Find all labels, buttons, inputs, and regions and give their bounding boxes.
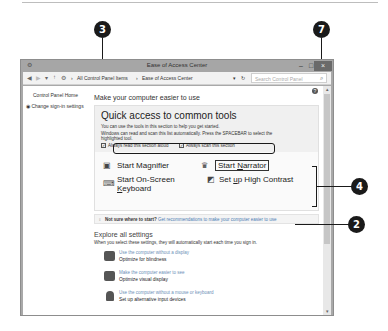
alternative-input-devices-item[interactable]: Use the computer without a mouse or keyb… (119, 290, 214, 302)
quick-access-panel: Quick access to common tools You can use… (94, 105, 319, 211)
keyboard-icon: ⌨ (103, 179, 115, 188)
display-icon (104, 251, 115, 261)
checkbox-checked-icon: ✓ (101, 143, 106, 148)
forward-button[interactable]: ▶ (36, 74, 41, 81)
explore-all-settings-heading: Explore all settings (94, 231, 153, 238)
quick-access-desc: You can use the tools in this section to… (101, 124, 219, 129)
callout-4-bracket-bottom (312, 206, 317, 207)
start-narrator-button[interactable]: ♛Start Narrator (215, 160, 269, 171)
sidebar-item-change-sign-in-settings[interactable]: ◉ Change sign-in settings (26, 103, 84, 109)
control-panel-location-icon: ⚙ (61, 74, 66, 81)
callout-3: 3 (94, 21, 111, 38)
quick-access-heading: Quick access to common tools (101, 110, 237, 121)
callout-4: 4 (351, 178, 368, 195)
address-bar: ◀ ▶ ▾ ↑ ⚙ › All Control Panel Items › Ea… (23, 72, 331, 85)
narrator-icon: ♛ (201, 161, 208, 170)
window-title: Ease of Access Center (21, 62, 333, 68)
explore-all-settings-desc: When you select these settings, they wil… (94, 240, 257, 245)
callout-2-leader (295, 224, 349, 225)
content-area: Control Panel Home ◉ Change sign-in sett… (23, 86, 323, 315)
contrast-icon: ◩ (207, 175, 215, 184)
ease-of-access-window: ⚙ Ease of Access Center – □ × ◀ ▶ ▾ ↑ ⚙ … (20, 59, 334, 316)
recent-locations-button[interactable]: ▾ (45, 74, 48, 81)
refresh-button[interactable]: ↻ (241, 75, 245, 81)
recommendations-tip: ♀ Not sure where to start? Get recommend… (94, 214, 319, 224)
scrollbar-thumb[interactable] (324, 94, 330, 244)
callout-2: 2 (348, 216, 365, 233)
back-button[interactable]: ◀ (27, 74, 32, 81)
vertical-scrollbar[interactable]: ▴ ▾ (323, 86, 331, 315)
callout-7: 7 (313, 21, 330, 38)
optimize-visual-display-item[interactable]: Make the computer easier to see Optimize… (119, 270, 185, 282)
top-divider (22, 2, 378, 3)
up-button[interactable]: ↑ (53, 74, 56, 80)
help-icon[interactable]: ? (312, 88, 318, 94)
person-icon (106, 291, 114, 301)
breadcrumb-ease-of-access-center[interactable]: Ease of Access Center (142, 75, 193, 81)
scroll-down-icon[interactable]: ▾ (323, 308, 331, 314)
checkbox-highlight-outline (113, 143, 275, 154)
scroll-up-icon[interactable]: ▴ (323, 86, 331, 92)
recommendations-link[interactable]: Get recommendations to make your compute… (158, 217, 277, 222)
magnifier-icon: ▣ (103, 161, 111, 170)
close-button[interactable]: × (314, 61, 332, 71)
start-on-screen-keyboard-button[interactable]: ⌨Start On-ScreenKeyboard (117, 175, 175, 193)
tip-label: Not sure where to start? (105, 217, 157, 222)
optimize-visual-display-link[interactable]: Optimize visual display (119, 277, 185, 282)
search-placeholder: Search Control Panel (255, 76, 303, 82)
title-bar: ⚙ Ease of Access Center – □ × (21, 60, 333, 72)
search-input[interactable]: Search Control Panel ⌕ (251, 73, 327, 83)
alternative-input-devices-link[interactable]: Set up alternative input devices (119, 297, 214, 302)
lightbulb-icon: ♀ (98, 216, 102, 222)
minimize-button[interactable]: – (296, 61, 306, 71)
visual-display-icon (104, 271, 115, 281)
sidebar-item-control-panel-home[interactable]: Control Panel Home (33, 92, 78, 98)
optimize-for-blindness-item[interactable]: Use the computer without a display Optim… (119, 250, 189, 262)
optimize-for-blindness-link[interactable]: Optimize for blindness (119, 257, 189, 262)
address-dropdown-button[interactable]: ▾ (233, 75, 236, 81)
start-magnifier-button[interactable]: ▣Start Magnifier (117, 161, 169, 170)
quick-access-desc-3: highlighted tool. (101, 136, 133, 141)
search-icon[interactable]: ⌕ (320, 75, 323, 82)
set-up-high-contrast-button[interactable]: ◩Set up High Contrast (219, 175, 293, 184)
page-title: Make your computer easier to use (94, 94, 200, 101)
callout-4-leader (316, 186, 352, 187)
breadcrumb-separator: › (136, 75, 138, 81)
breadcrumb-all-control-panel-items[interactable]: All Control Panel Items (77, 75, 128, 81)
breadcrumb-separator: › (71, 75, 73, 81)
